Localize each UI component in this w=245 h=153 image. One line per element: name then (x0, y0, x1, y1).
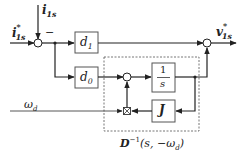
sum-junction-inner (123, 73, 131, 81)
block-diagram-canvas (0, 0, 245, 153)
label-output-v: v*1s (216, 25, 237, 41)
label-d1: d1 (80, 36, 93, 51)
label-i-ref: i*1s (12, 26, 30, 42)
subsystem-label: D−1(s, −ωd) (120, 136, 184, 151)
to-j-arrow (176, 77, 195, 111)
integrator-denominator: s (160, 79, 165, 89)
sum-junction-output (203, 39, 211, 47)
minus-sign: − (45, 27, 54, 38)
sum-junction-input (34, 39, 42, 47)
to-d0-arrow (55, 43, 74, 77)
label-i-feedback: i1s (42, 4, 56, 19)
label-d0: d0 (80, 71, 93, 86)
integrator-numerator: 1 (160, 65, 166, 75)
label-omega-d: ωd (24, 99, 38, 112)
to-output-sum-arrow (195, 48, 207, 77)
label-j: J (159, 104, 165, 116)
